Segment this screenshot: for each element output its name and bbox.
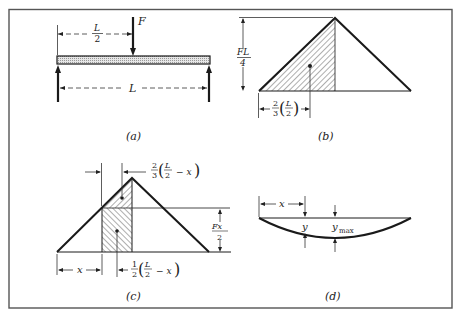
peak-num: FL xyxy=(236,47,249,57)
panel-c: 2 3 ( L 2 − x ) Fx 2 x 1 2 ( L 2 − xyxy=(57,161,231,303)
right-reaction-arrow-icon xyxy=(206,65,212,102)
bottom-minus: − x xyxy=(156,266,171,276)
x-label: x xyxy=(77,264,83,275)
close-paren: ) xyxy=(194,161,200,180)
half-span-den: 2 xyxy=(95,34,101,44)
panel-a: F L 2 L (a) xyxy=(55,15,212,143)
y-label: y xyxy=(301,221,308,232)
top-coef-num: 2 xyxy=(152,161,157,170)
panel-b: FL 4 2 3 ( L 2 ) (b) xyxy=(236,18,411,144)
figure-frame xyxy=(9,10,452,309)
open-paren: ( xyxy=(158,161,164,180)
half-span-num: L xyxy=(93,23,100,33)
span-label: L xyxy=(128,82,136,95)
ymax-sub: max xyxy=(339,227,354,235)
height-num: Fx xyxy=(211,222,223,231)
centroid-coef-den: 3 xyxy=(273,109,278,118)
top-inner-den: 2 xyxy=(165,171,170,180)
centroid-inner-den: 2 xyxy=(286,109,291,118)
top-inner-num: L xyxy=(164,161,170,170)
open-paren: ( xyxy=(138,260,144,279)
height-den: 2 xyxy=(217,233,222,242)
bottom-coef-num: 1 xyxy=(132,260,137,269)
force-arrow-icon xyxy=(130,17,136,56)
centroid-inner-num: L xyxy=(285,99,291,108)
top-minus: − x xyxy=(176,167,191,177)
close-paren: ) xyxy=(174,260,180,279)
caption-b: (b) xyxy=(318,130,334,143)
top-coef-den: 3 xyxy=(152,171,157,180)
bottom-inner-den: 2 xyxy=(145,270,150,279)
centroid-coef-num: 2 xyxy=(273,99,278,108)
triangle-centroid-dot xyxy=(120,196,124,200)
close-paren: ) xyxy=(293,99,299,118)
caption-d: (d) xyxy=(325,290,341,303)
open-paren: ( xyxy=(279,99,285,118)
bottom-inner-num: L xyxy=(144,260,150,269)
left-reaction-arrow-icon xyxy=(55,65,61,102)
force-label: F xyxy=(137,15,146,28)
caption-a: (a) xyxy=(126,130,141,143)
panel-d: x y y max (d) xyxy=(259,196,411,303)
bottom-coef-den: 2 xyxy=(132,270,137,279)
peak-den: 4 xyxy=(239,58,246,68)
caption-c: (c) xyxy=(126,290,141,303)
figure-canvas: F L 2 L (a) xyxy=(0,0,462,317)
x-label-d: x xyxy=(279,198,285,209)
ymax-label: y xyxy=(331,221,338,232)
beam xyxy=(57,56,210,64)
